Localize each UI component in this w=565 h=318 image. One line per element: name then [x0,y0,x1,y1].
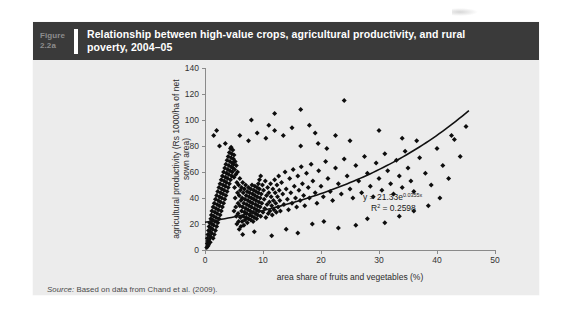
data-point [377,128,382,133]
data-point [397,214,402,219]
figure-number-word: Figure [40,31,74,41]
data-point [291,167,296,172]
x-tick-label: 50 [490,255,500,265]
figure-header-bar: Figure 2.2a Relationship between high-va… [33,22,539,60]
x-tick-label: 10 [258,255,268,265]
scatter-chart: 020406080100120140 01020304050 area shar… [33,60,539,295]
data-point [295,173,300,178]
data-point [298,107,303,112]
data-point [258,173,263,178]
data-point [217,144,222,149]
data-point [280,192,285,197]
equation-annotation: y = 21.33e0.0355xR2 = 0.2598 [363,192,422,213]
data-point [301,193,306,198]
data-point [278,209,283,214]
data-point [324,146,329,151]
data-point [382,151,387,156]
data-point [284,227,289,232]
data-point [406,166,411,171]
data-point [385,168,390,173]
data-point [342,157,347,162]
data-point [269,233,274,238]
data-point [214,128,219,133]
data-point [353,223,358,228]
data-point [348,186,353,191]
data-point [350,196,355,201]
data-point [263,215,268,220]
data-point [336,181,341,186]
data-point [296,188,301,193]
data-point [211,133,216,138]
figure-panel: Figure 2.2a Relationship between high-va… [33,22,539,295]
data-point [288,190,293,195]
data-point [272,111,277,116]
data-point [377,176,382,181]
data-point [330,198,335,203]
y-tick-label: 140 [185,63,199,73]
data-point [382,220,387,225]
source-note: Source: Based on data from Chand et al. … [47,285,218,294]
data-point [299,164,304,169]
data-point [285,197,290,202]
data-point [345,173,350,178]
data-point [293,196,298,201]
data-point [316,168,321,173]
data-point [339,192,344,197]
data-point [348,138,353,143]
data-point [260,183,265,188]
data-point [414,138,419,143]
data-point [261,188,266,193]
data-point [423,171,428,176]
data-point [302,203,307,208]
y-tick-label: 120 [185,89,199,99]
data-point [249,118,254,123]
data-point [435,146,440,151]
data-point [269,194,274,199]
data-point [336,225,341,230]
data-point [374,160,379,165]
data-point [262,197,267,202]
data-point [298,144,303,149]
data-point [265,185,270,190]
data-point [257,177,262,182]
data-point [237,176,242,181]
chart-root: 020406080100120140 01020304050 area shar… [171,63,500,282]
data-points [204,98,468,250]
data-point [276,173,281,178]
header-divider [74,29,78,54]
source-label: Source: [47,285,74,294]
data-point [273,190,278,195]
data-point [290,125,295,130]
data-point [287,176,292,181]
data-point [233,196,238,201]
data-point [272,177,277,182]
source-text: Based on data from Chand et al. (2009). [74,285,217,294]
data-point [286,207,291,212]
data-point [316,141,321,146]
trendline-equation: y = 21.33e0.0355x [363,192,422,202]
data-point [268,181,273,186]
data-point [446,176,451,181]
data-point [400,185,405,190]
data-point [408,179,413,184]
chart-plot-area: 020406080100120140 01020304050 area shar… [33,60,539,295]
data-point [294,205,299,210]
r-squared-value: R2 = 0.2598 [371,203,416,213]
scan-artifact [452,8,478,16]
data-point [274,183,279,188]
data-point [464,124,469,129]
data-point [281,133,286,138]
data-point [277,198,282,203]
data-point [309,162,314,167]
axis-titles: area share of fruits and vegetables (%)a… [171,79,423,282]
y-tick-label: 40 [190,193,200,203]
y-axis-title: sown area) [181,138,191,180]
data-point [333,133,338,138]
x-tick-label: 20 [316,255,326,265]
data-point [362,154,367,159]
figure-number: Figure 2.2a [40,31,74,51]
data-point [368,184,373,189]
data-point [403,149,408,154]
y-axis [202,68,206,250]
data-point [313,131,318,136]
